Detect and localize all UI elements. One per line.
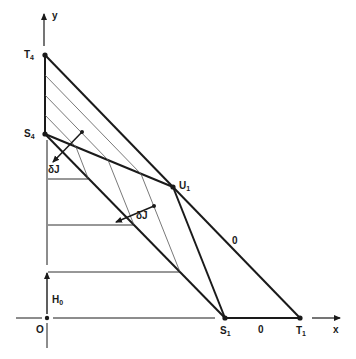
label-S1: S1	[220, 326, 231, 339]
deltaJ-arrow-2	[116, 206, 154, 222]
point-U1	[170, 184, 175, 189]
label-T4: T4	[24, 50, 34, 63]
label-S4-sub: 4	[31, 133, 35, 140]
label-zero-T4T1: 0	[232, 236, 238, 246]
label-S1-sub: 1	[227, 330, 231, 337]
point-O	[45, 316, 49, 320]
point-T4	[42, 52, 47, 57]
x-axis-label: x	[333, 325, 339, 335]
point-S1	[222, 315, 227, 320]
y-axis-label: y	[52, 11, 58, 21]
deltaJ-2-dot	[152, 204, 156, 208]
point-S4	[42, 131, 47, 136]
label-U1: U1	[179, 181, 190, 194]
point-T1	[297, 315, 302, 320]
label-S1-main: S	[220, 325, 227, 336]
label-U1-sub: 1	[186, 185, 190, 192]
label-S4: S4	[24, 129, 35, 142]
label-S4-main: S	[24, 128, 31, 139]
label-origin: O	[36, 325, 44, 335]
label-zero-S1T1: 0	[258, 325, 264, 335]
label-H0: H0	[52, 295, 63, 308]
hatch-line-2	[45, 95, 134, 225]
deltaJ-1-dot	[80, 130, 84, 134]
label-deltaJ-1: δJ	[48, 165, 60, 175]
label-T1-sub: 1	[302, 330, 306, 337]
label-H0-sub: 0	[59, 299, 63, 306]
label-deltaJ-2: δJ	[136, 211, 148, 221]
segment-U1-S1	[173, 187, 225, 318]
label-T1: T1	[296, 326, 306, 339]
label-T4-sub: 4	[30, 54, 34, 61]
segment-S4-S1	[45, 134, 225, 318]
